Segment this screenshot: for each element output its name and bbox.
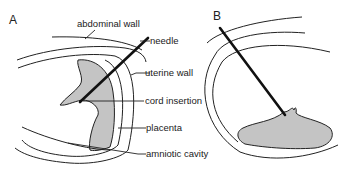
label-placenta: placenta (146, 122, 183, 133)
label-uterine-wall: uterine wall (145, 67, 193, 78)
label-amniotic-cavity: amniotic cavity (146, 148, 209, 159)
abdominal-wall-outer (52, 37, 142, 50)
placenta-shape (60, 60, 114, 151)
label-abdominal-wall: abdominal wall (77, 18, 140, 29)
amniocentesis-diagram: A abdominal wall needle uterine wall cor… (0, 0, 349, 169)
panel-b-label: B (213, 9, 221, 23)
panel-a-label: A (9, 13, 17, 27)
panel-b: B (205, 9, 338, 158)
label-cord-insertion: cord insertion (145, 95, 202, 106)
panel-a: A abdominal wall needle uterine wall cor… (9, 13, 209, 163)
abdominal-wall-curve-2 (18, 55, 115, 69)
needle-b (220, 28, 285, 115)
label-needle: needle (150, 35, 179, 46)
